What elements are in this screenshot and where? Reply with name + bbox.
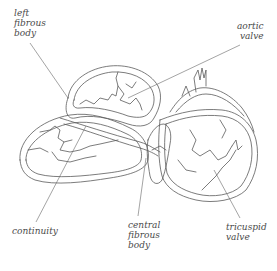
- label-line: fibrous: [14, 18, 46, 28]
- label-line: left: [14, 8, 46, 18]
- tricuspid-annulus-outer: [159, 109, 258, 201]
- leader-central-fibrous-body: [138, 158, 146, 216]
- label-line: body: [128, 240, 160, 250]
- label-line: continuity: [12, 226, 58, 236]
- label-central-fibrous-body: central fibrous body: [128, 220, 160, 250]
- aortic-root-outer: [66, 66, 160, 126]
- tricuspid-leaflet-lines: [190, 130, 232, 160]
- label-aortic-valve: aortic valve: [237, 21, 264, 41]
- label-line: fibrous: [128, 230, 160, 240]
- label-continuity: continuity: [12, 226, 58, 236]
- label-line: tricuspid: [226, 222, 267, 232]
- label-line: body: [14, 28, 46, 38]
- aortic-cusp-lines: [80, 72, 118, 104]
- label-line: valve: [226, 232, 267, 242]
- label-line: valve: [237, 31, 264, 41]
- label-tricuspid-valve: tricuspid valve: [226, 222, 267, 242]
- label-left-fibrous-body: left fibrous body: [14, 8, 46, 38]
- leader-tricuspid-valve: [214, 170, 240, 218]
- leader-left-fibrous-body: [30, 43, 68, 98]
- label-line: aortic: [237, 21, 264, 31]
- label-line: central: [128, 220, 160, 230]
